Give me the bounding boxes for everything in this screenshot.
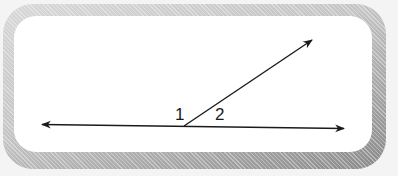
- horizontal-line: [42, 125, 344, 129]
- angle-1-label: 1: [175, 106, 184, 123]
- angle-diagram: [0, 0, 398, 176]
- ray: [184, 40, 312, 126]
- angle-2-label: 2: [215, 106, 224, 123]
